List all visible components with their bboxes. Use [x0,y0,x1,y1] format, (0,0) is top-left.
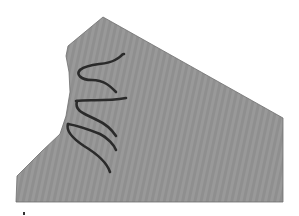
natural-image-canvas [0,0,299,216]
small-dark-marker [23,212,25,215]
